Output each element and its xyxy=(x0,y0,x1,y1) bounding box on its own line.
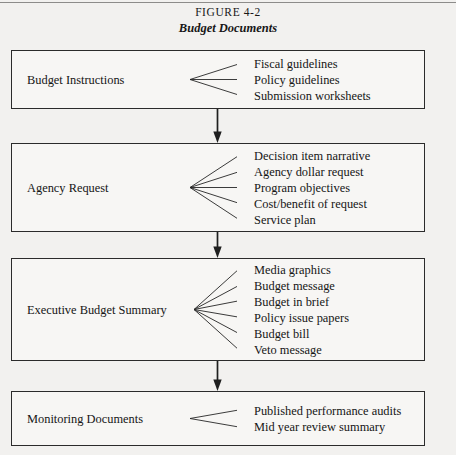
down-arrow-icon xyxy=(213,109,222,143)
fan-connector-icon xyxy=(183,259,239,360)
list-item: Decision item narrative xyxy=(254,148,370,164)
list-item: Submission worksheets xyxy=(254,88,371,104)
list-item: Budget in brief xyxy=(254,294,349,310)
stage-label: Monitoring Documents xyxy=(27,411,143,426)
list-item: Cost/benefit of request xyxy=(254,196,370,212)
list-item: Budget message xyxy=(254,278,349,294)
list-item: Service plan xyxy=(254,212,370,228)
flow-stage-box-agency-request: Agency Request Decision item narrative A… xyxy=(11,143,425,232)
list-item: Fiscal guidelines xyxy=(254,56,371,72)
stage-item-list: Media graphics Budget message Budget in … xyxy=(254,262,349,358)
down-arrow-icon xyxy=(213,232,222,258)
list-item: Agency dollar request xyxy=(254,164,370,180)
flow-stage-box-budget-instructions: Budget Instructions Fiscal guidelines Po… xyxy=(11,50,425,109)
stage-item-list: Decision item narrative Agency dollar re… xyxy=(254,148,370,228)
list-item: Policy guidelines xyxy=(254,72,371,88)
flow-stage-box-monitoring-documents: Monitoring Documents Published performan… xyxy=(11,391,425,446)
list-item: Published performance audits xyxy=(254,403,401,419)
figure-root: FIGURE 4-2 Budget Documents Budget Instr… xyxy=(0,0,456,455)
figure-number: FIGURE 4-2 xyxy=(0,6,456,20)
stage-label: Executive Budget Summary xyxy=(27,302,167,317)
list-item: Program objectives xyxy=(254,180,370,196)
list-item: Media graphics xyxy=(254,262,349,278)
fan-connector-icon xyxy=(177,392,239,445)
down-arrow-icon xyxy=(213,361,222,391)
fan-connector-icon xyxy=(177,144,239,231)
figure-title: Budget Documents xyxy=(0,21,456,36)
stage-item-list: Published performance audits Mid year re… xyxy=(254,403,401,435)
fan-connector-icon xyxy=(177,51,239,108)
list-item: Veto message xyxy=(254,342,349,358)
list-item: Policy issue papers xyxy=(254,310,349,326)
stage-item-list: Fiscal guidelines Policy guidelines Subm… xyxy=(254,56,371,104)
stage-label: Budget Instructions xyxy=(27,72,124,87)
figure-caption: FIGURE 4-2 Budget Documents xyxy=(0,6,456,35)
page-top-rule xyxy=(0,2,456,3)
list-item: Mid year review summary xyxy=(254,419,401,435)
flow-stage-box-executive-budget-summary: Executive Budget Summary Media graphics … xyxy=(11,258,425,361)
list-item: Budget bill xyxy=(254,326,349,342)
stage-label: Agency Request xyxy=(27,180,109,195)
